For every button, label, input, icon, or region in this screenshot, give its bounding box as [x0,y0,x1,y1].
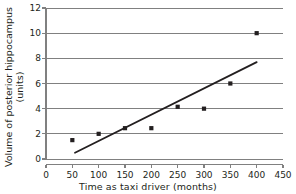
data-point-marker [255,31,259,35]
data-point-marker [97,132,101,136]
y-axis-tick-label: 10 [20,29,41,38]
data-point-marker [202,107,206,111]
data-point-marker [176,105,180,109]
y-axis-tick-label: 6 [20,79,41,88]
x-axis-title: Time as taxi driver (months) [0,181,296,192]
trend-line [75,62,257,153]
x-axis-tick-label: 0 [43,171,49,180]
x-axis-tick-label: 250 [169,171,186,180]
chart-container: Volume of posterior hippocampus (units) … [0,0,296,194]
x-axis-tick-label: 200 [143,171,160,180]
y-axis-tick-label: 0 [20,155,41,164]
x-axis-tick-label: 100 [90,171,107,180]
data-point-marker [149,126,153,130]
y-axis-tick-label: 8 [20,54,41,63]
x-axis-tick-label: 400 [248,171,265,180]
x-axis-tick-label: 450 [274,171,291,180]
x-axis-tick-label: 300 [195,171,212,180]
chart-plot-area [0,0,296,194]
data-point-marker [70,138,74,142]
x-axis-tick-label: 350 [222,171,239,180]
data-point-marker [123,126,127,130]
data-point-marker [228,81,232,85]
y-axis-tick-label: 4 [20,104,41,113]
y-axis-tick-label: 12 [20,4,41,13]
x-axis-tick-label: 50 [67,171,78,180]
y-axis-tick-label: 2 [20,129,41,138]
x-axis-tick-label: 150 [116,171,133,180]
